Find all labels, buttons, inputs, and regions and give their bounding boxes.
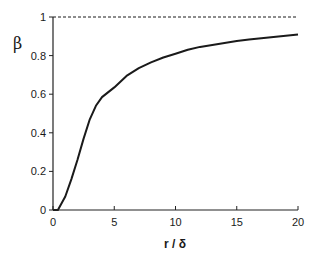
x-tick-label: 20 — [292, 216, 304, 228]
x-tick-label: 15 — [231, 216, 243, 228]
x-tick-label: 5 — [111, 216, 117, 228]
y-tick-label: 0.2 — [31, 165, 46, 177]
y-tick-label: 1 — [40, 11, 46, 23]
x-tick-label: 0 — [50, 216, 56, 228]
plot-area — [53, 17, 298, 210]
beta-curve — [53, 34, 298, 210]
axes: 00.20.40.60.8105101520 — [31, 11, 304, 228]
x-tick-label: 10 — [169, 216, 181, 228]
chart: 00.20.40.60.8105101520 β r / δ — [0, 0, 320, 265]
x-axis-label: r / δ — [164, 237, 186, 251]
y-tick-label: 0 — [40, 204, 46, 216]
y-tick-label: 0.8 — [31, 50, 46, 62]
y-tick-label: 0.4 — [31, 127, 46, 139]
y-axis-label: β — [13, 34, 22, 53]
y-tick-label: 0.6 — [31, 88, 46, 100]
